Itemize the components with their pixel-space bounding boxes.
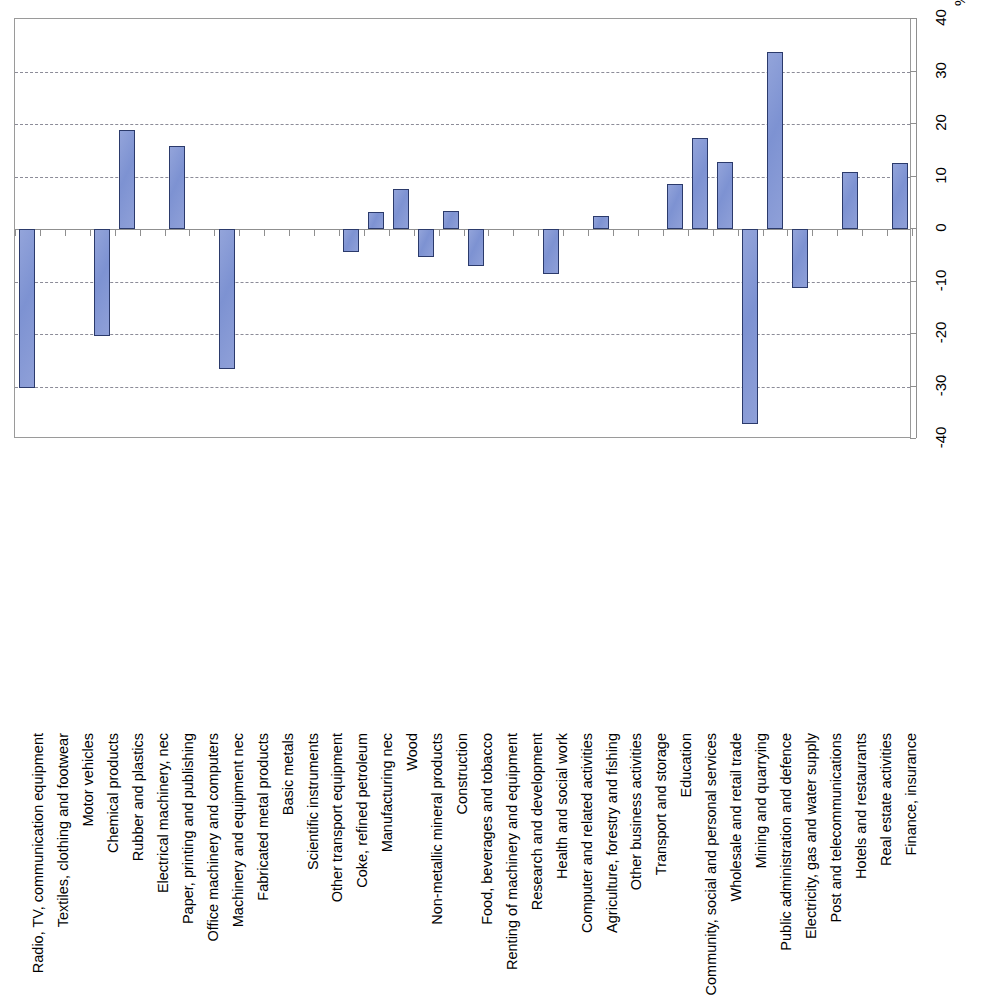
category-tick [763, 229, 764, 236]
category-tick [314, 229, 315, 236]
category-tick [563, 229, 564, 236]
bar [742, 229, 758, 424]
category-tick [214, 229, 215, 236]
value-axis-tick [910, 438, 916, 439]
category-label: Paper, printing and publishing [181, 733, 196, 924]
value-axis-label: 40 [933, 0, 948, 40]
category-label: Computer and related activities [580, 733, 595, 933]
value-axis-tick [910, 386, 916, 387]
value-axis-tick [910, 18, 916, 19]
bar [667, 184, 683, 229]
category-tick [588, 229, 589, 236]
category-label: Public administration and defence [779, 733, 794, 951]
value-axis-tick [910, 281, 916, 282]
bar [119, 130, 135, 229]
category-label: Transport and storage [654, 733, 669, 875]
category-tick [90, 229, 91, 236]
value-axis-tick [910, 333, 916, 334]
bar [692, 138, 708, 229]
category-label: Radio, TV, communication equipment [31, 733, 46, 973]
bar [443, 211, 459, 229]
category-axis-labels: Radio, TV, communication equipmentTextil… [14, 441, 911, 741]
category-tick [862, 229, 863, 236]
bar [169, 146, 185, 229]
category-tick [738, 229, 739, 236]
category-label: Chemical products [106, 733, 121, 853]
category-tick [812, 229, 813, 236]
category-tick [887, 229, 888, 236]
category-tick [439, 229, 440, 236]
category-label: Textiles, clothing and footwear [56, 733, 71, 927]
value-axis-tick [910, 176, 916, 177]
bar [543, 229, 559, 274]
value-axis-label: 20 [933, 101, 948, 145]
value-axis-label: -20 [933, 311, 948, 355]
category-tick [464, 229, 465, 236]
category-label: Community, social and personal services [704, 733, 719, 995]
value-axis-tick [910, 123, 916, 124]
category-tick [339, 229, 340, 236]
category-tick [613, 229, 614, 236]
value-axis-label: 10 [933, 153, 948, 197]
category-tick [837, 229, 838, 236]
category-label: Fabricated metal products [256, 733, 271, 901]
category-tick [787, 229, 788, 236]
plot-area [14, 18, 911, 438]
category-tick [488, 229, 489, 236]
category-tick [115, 229, 116, 236]
category-label: Scientific instruments [306, 733, 321, 870]
category-label: Wholesale and retail trade [729, 733, 744, 901]
bar [94, 229, 110, 336]
gridline [15, 334, 910, 335]
bar [343, 229, 359, 252]
zero-axis-line [15, 229, 910, 230]
category-label: Motor vehicles [81, 733, 96, 826]
category-label: Research and development [530, 733, 545, 910]
value-axis-label: -10 [933, 258, 948, 302]
category-label: Electricity, gas and water supply [804, 733, 819, 939]
category-tick [189, 229, 190, 236]
bar [393, 189, 409, 229]
category-tick [389, 229, 390, 236]
category-tick [165, 229, 166, 236]
category-tick [688, 229, 689, 236]
category-tick [414, 229, 415, 236]
category-label: Real estate activities [879, 733, 894, 866]
category-label: Manufacturing nec [380, 733, 395, 852]
value-axis-tick [910, 228, 916, 229]
category-label: Hotels and restaurants [854, 733, 869, 879]
category-label: Mining and quarrying [754, 733, 769, 868]
category-label: Agriculture, forestry and fishing [605, 733, 620, 933]
bar [892, 163, 908, 229]
category-label: Non-metallic mineral products [430, 733, 445, 925]
category-label: Post and telecommunications [829, 733, 844, 922]
bar [219, 229, 235, 369]
category-label: Food, beverages and tobacco [480, 733, 495, 925]
category-label: Machinery and equipment nec [231, 733, 246, 927]
bar [842, 172, 858, 229]
category-label: Electrical machinery, nec [156, 733, 171, 893]
bar [593, 216, 609, 229]
category-label: Other business activities [629, 733, 644, 890]
category-tick [513, 229, 514, 236]
category-tick [15, 229, 16, 236]
category-label: Basic metals [281, 733, 296, 815]
category-tick [239, 229, 240, 236]
bar [468, 229, 484, 266]
value-axis-tick [910, 71, 916, 72]
category-label: Finance, insurance [904, 733, 919, 856]
category-tick [912, 229, 913, 236]
category-label: Office machinery and computers [206, 733, 221, 941]
category-tick [40, 229, 41, 236]
gridline [15, 387, 910, 388]
value-axis-label: -30 [933, 363, 948, 407]
value-axis-line [916, 18, 917, 438]
bar [767, 52, 783, 229]
category-tick [364, 229, 365, 236]
bar [792, 229, 808, 288]
value-axis-label: -40 [933, 416, 948, 460]
category-label: Other transport equipment [330, 733, 345, 902]
bar [19, 229, 35, 388]
category-label: Renting of machinery and equipment [505, 733, 520, 970]
category-tick [289, 229, 290, 236]
